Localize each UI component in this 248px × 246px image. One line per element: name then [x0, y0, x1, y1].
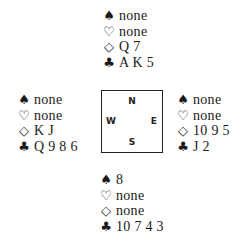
north-spades-row: ♠ none: [103, 8, 183, 24]
diamond-icon: ◇: [103, 39, 115, 55]
west-clubs-row: ♣ Q 9 8 6: [18, 139, 98, 155]
club-icon: ♣: [177, 139, 189, 155]
west-diamonds-row: ◇ K J: [18, 123, 98, 139]
south-hearts-cards: none: [116, 188, 144, 204]
spade-icon: ♠: [100, 172, 112, 188]
west-hearts-cards: none: [34, 108, 62, 124]
compass-west-label: W: [106, 116, 116, 126]
club-icon: ♣: [18, 139, 30, 155]
west-hearts-row: ♡ none: [18, 108, 98, 124]
spade-icon: ♠: [177, 92, 189, 108]
compass-east-label: E: [151, 116, 157, 126]
spade-icon: ♠: [18, 92, 30, 108]
south-clubs-row: ♣ 10 7 4 3: [100, 219, 180, 235]
north-clubs-row: ♣ A K 5: [103, 55, 183, 71]
north-diamonds-cards: Q 7: [119, 39, 141, 55]
heart-icon: ♡: [177, 108, 189, 124]
west-hand: ♠ none ♡ none ◇ K J ♣ Q 9 8 6: [18, 92, 98, 154]
east-hand: ♠ none ♡ none ◇ 10 9 5 ♣ J 2: [177, 92, 248, 154]
heart-icon: ♡: [103, 24, 115, 40]
compass-north-label: N: [102, 96, 162, 106]
heart-icon: ♡: [100, 188, 112, 204]
north-diamonds-row: ◇ Q 7: [103, 39, 183, 55]
east-diamonds-row: ◇ 10 9 5: [177, 123, 248, 139]
east-clubs-row: ♣ J 2: [177, 139, 248, 155]
club-icon: ♣: [100, 219, 112, 235]
diamond-icon: ◇: [18, 123, 30, 139]
east-spades-cards: none: [193, 92, 221, 108]
west-spades-row: ♠ none: [18, 92, 98, 108]
compass-south-label: S: [102, 137, 162, 147]
compass-box: N W E S: [101, 90, 163, 153]
south-diamonds-row: ◇ none: [100, 203, 180, 219]
east-spades-row: ♠ none: [177, 92, 248, 108]
north-hand: ♠ none ♡ none ◇ Q 7 ♣ A K 5: [103, 8, 183, 70]
north-clubs-cards: A K 5: [119, 55, 154, 71]
diamond-icon: ◇: [100, 203, 112, 219]
east-clubs-cards: J 2: [193, 139, 210, 155]
diamond-icon: ◇: [177, 123, 189, 139]
south-diamonds-cards: none: [116, 203, 144, 219]
east-hearts-cards: none: [193, 108, 221, 124]
south-hearts-row: ♡ none: [100, 188, 180, 204]
north-hearts-cards: none: [119, 24, 147, 40]
club-icon: ♣: [103, 55, 115, 71]
spade-icon: ♠: [103, 8, 115, 24]
east-hearts-row: ♡ none: [177, 108, 248, 124]
north-spades-cards: none: [119, 8, 147, 24]
west-diamonds-cards: K J: [34, 123, 54, 139]
north-hearts-row: ♡ none: [103, 24, 183, 40]
south-hand: ♠ 8 ♡ none ◇ none ♣ 10 7 4 3: [100, 172, 180, 234]
east-diamonds-cards: 10 9 5: [193, 123, 230, 139]
south-clubs-cards: 10 7 4 3: [116, 219, 164, 235]
west-spades-cards: none: [34, 92, 62, 108]
south-spades-cards: 8: [116, 172, 123, 188]
heart-icon: ♡: [18, 108, 30, 124]
west-clubs-cards: Q 9 8 6: [34, 139, 78, 155]
south-spades-row: ♠ 8: [100, 172, 180, 188]
